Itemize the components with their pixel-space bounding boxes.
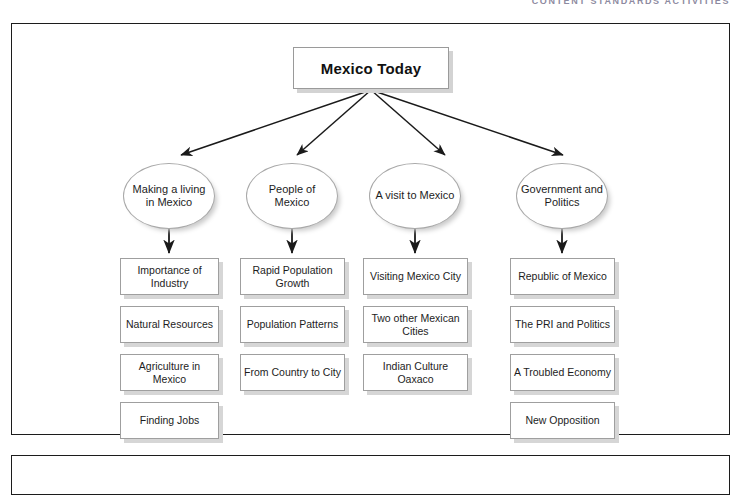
branch-oval-4-label: Government and Politics <box>517 183 607 210</box>
leaf-box-4-1-label: Republic of Mexico <box>516 270 609 283</box>
next-panel <box>11 455 730 495</box>
running-head: CONTENT STANDARDS ACTIVITIES <box>532 0 730 6</box>
leaf-box-3-2-label: Two other Mexican Cities <box>364 312 467 338</box>
leaf-box-1-2-label: Natural Resources <box>124 318 215 331</box>
leaf-box-2-3-label: From Country to City <box>242 366 343 379</box>
leaf-box-3-2: Two other Mexican Cities <box>363 306 468 343</box>
leaf-box-4-3-label: A Troubled Economy <box>512 366 613 379</box>
leaf-box-4-1: Republic of Mexico <box>510 258 615 295</box>
diagram-root-title: Mexico Today <box>293 47 449 89</box>
leaf-box-2-2: Population Patterns <box>240 306 345 343</box>
leaf-box-1-1-label: Importance of Industry <box>121 264 218 290</box>
leaf-box-4-3: A Troubled Economy <box>510 354 615 391</box>
leaf-box-4-2: The PRI and Politics <box>510 306 615 343</box>
leaf-box-1-3: Agriculture in Mexico <box>120 354 219 391</box>
leaf-box-3-3: Indian Culture Oaxaco <box>363 354 468 391</box>
leaf-box-1-1: Importance of Industry <box>120 258 219 295</box>
leaf-box-4-4-label: New Opposition <box>523 414 601 427</box>
branch-oval-2-label: People of Mexico <box>247 183 337 210</box>
leaf-box-1-4-label: Finding Jobs <box>138 414 202 427</box>
diagram-root-title-label: Mexico Today <box>321 60 421 77</box>
leaf-box-4-4: New Opposition <box>510 402 615 439</box>
leaf-box-4-2-label: The PRI and Politics <box>513 318 612 331</box>
leaf-box-1-4: Finding Jobs <box>120 402 219 439</box>
leaf-box-2-2-label: Population Patterns <box>245 318 341 331</box>
leaf-box-3-1: Visiting Mexico City <box>363 258 468 295</box>
diagram-panel: UNIT 3 ACTIVITIES Mexico Today Making a … <box>11 23 730 435</box>
leaf-box-1-3-label: Agriculture in Mexico <box>121 360 218 386</box>
leaf-box-3-1-label: Visiting Mexico City <box>368 270 463 283</box>
branch-oval-4: Government and Politics <box>516 163 608 229</box>
leaf-box-2-1: Rapid Population Growth <box>240 258 345 295</box>
leaf-box-3-3-label: Indian Culture Oaxaco <box>364 360 467 386</box>
mexico-today-diagram: UNIT 3 ACTIVITIES Mexico Today Making a … <box>12 24 731 436</box>
branch-oval-1: Making a living in Mexico <box>123 163 215 229</box>
leaf-box-2-1-label: Rapid Population Growth <box>241 264 344 290</box>
branch-oval-3: A visit to Mexico <box>369 163 461 229</box>
branch-oval-1-label: Making a living in Mexico <box>124 183 214 210</box>
leaf-box-1-2: Natural Resources <box>120 306 219 343</box>
leaf-box-2-3: From Country to City <box>240 354 345 391</box>
branch-oval-2: People of Mexico <box>246 163 338 229</box>
branch-oval-3-label: A visit to Mexico <box>372 189 459 203</box>
